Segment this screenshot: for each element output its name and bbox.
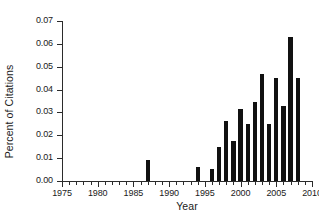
x-axis-tick-label: 1985 bbox=[113, 188, 153, 198]
x-axis-tick-minor bbox=[176, 182, 177, 185]
y-axis-tick-label: 0.05 bbox=[13, 61, 53, 71]
x-axis-tick-minor bbox=[126, 182, 127, 185]
x-axis-tick-minor bbox=[69, 182, 70, 185]
bar bbox=[210, 169, 214, 181]
bar bbox=[146, 160, 150, 181]
bar bbox=[238, 109, 242, 181]
x-axis-tick-minor bbox=[226, 182, 227, 185]
x-axis-tick-minor bbox=[291, 182, 292, 185]
x-axis-tick-label: 1995 bbox=[185, 188, 225, 198]
x-axis-tick-label: 1980 bbox=[78, 188, 118, 198]
x-axis-tick bbox=[169, 182, 170, 187]
bar bbox=[246, 124, 250, 181]
x-axis-tick bbox=[133, 182, 134, 187]
y-axis-tick-label: 0.03 bbox=[13, 106, 53, 116]
x-axis-tick-minor bbox=[283, 182, 284, 185]
citations-per-year-bar-chart: Percent of Citations Year 0.000.010.020.… bbox=[0, 0, 319, 223]
x-axis-tick-minor bbox=[148, 182, 149, 185]
x-axis-tick-label: 2000 bbox=[221, 188, 261, 198]
bar bbox=[267, 124, 271, 181]
x-axis-tick-minor bbox=[141, 182, 142, 185]
bar bbox=[217, 147, 221, 181]
bar bbox=[260, 74, 264, 181]
bar bbox=[274, 78, 278, 181]
y-axis-tick-label: 0.00 bbox=[13, 175, 53, 185]
x-axis-tick-minor bbox=[248, 182, 249, 185]
bar bbox=[224, 121, 228, 181]
x-axis-tick bbox=[312, 182, 313, 187]
x-axis-tick-label: 2005 bbox=[256, 188, 296, 198]
y-axis-tick-label: 0.07 bbox=[13, 15, 53, 25]
bar bbox=[196, 167, 200, 181]
x-axis-tick-minor bbox=[155, 182, 156, 185]
bar bbox=[296, 78, 300, 181]
x-axis-tick-minor bbox=[233, 182, 234, 185]
bar bbox=[253, 102, 257, 181]
bar bbox=[281, 106, 285, 181]
x-axis-tick-minor bbox=[305, 182, 306, 185]
x-axis-title: Year bbox=[62, 200, 312, 212]
y-axis-tick-label: 0.06 bbox=[13, 38, 53, 48]
x-axis-tick bbox=[276, 182, 277, 187]
x-axis-tick bbox=[62, 182, 63, 187]
x-axis-tick-minor bbox=[191, 182, 192, 185]
x-axis-tick-minor bbox=[119, 182, 120, 185]
x-axis-tick-label: 1990 bbox=[149, 188, 189, 198]
x-axis-tick-label: 1975 bbox=[42, 188, 82, 198]
x-axis-tick-minor bbox=[219, 182, 220, 185]
y-axis-tick-label: 0.02 bbox=[13, 129, 53, 139]
bar bbox=[231, 141, 235, 181]
x-axis-tick-minor bbox=[255, 182, 256, 185]
x-axis-tick bbox=[205, 182, 206, 187]
y-axis-tick-label: 0.04 bbox=[13, 84, 53, 94]
x-axis-tick bbox=[241, 182, 242, 187]
x-axis-tick-minor bbox=[162, 182, 163, 185]
x-axis-tick-minor bbox=[262, 182, 263, 185]
x-axis-tick-minor bbox=[183, 182, 184, 185]
x-axis-tick bbox=[98, 182, 99, 187]
x-axis-tick-minor bbox=[76, 182, 77, 185]
bar bbox=[288, 37, 292, 181]
y-axis-tick-label: 0.01 bbox=[13, 152, 53, 162]
x-axis-tick-label: 2010 bbox=[292, 188, 319, 198]
x-axis-tick-minor bbox=[91, 182, 92, 185]
x-axis-tick-minor bbox=[83, 182, 84, 185]
x-axis-tick-minor bbox=[198, 182, 199, 185]
x-axis-tick-minor bbox=[269, 182, 270, 185]
x-axis-tick-minor bbox=[212, 182, 213, 185]
x-axis-tick-minor bbox=[298, 182, 299, 185]
x-axis-tick-minor bbox=[105, 182, 106, 185]
x-axis-tick-minor bbox=[112, 182, 113, 185]
